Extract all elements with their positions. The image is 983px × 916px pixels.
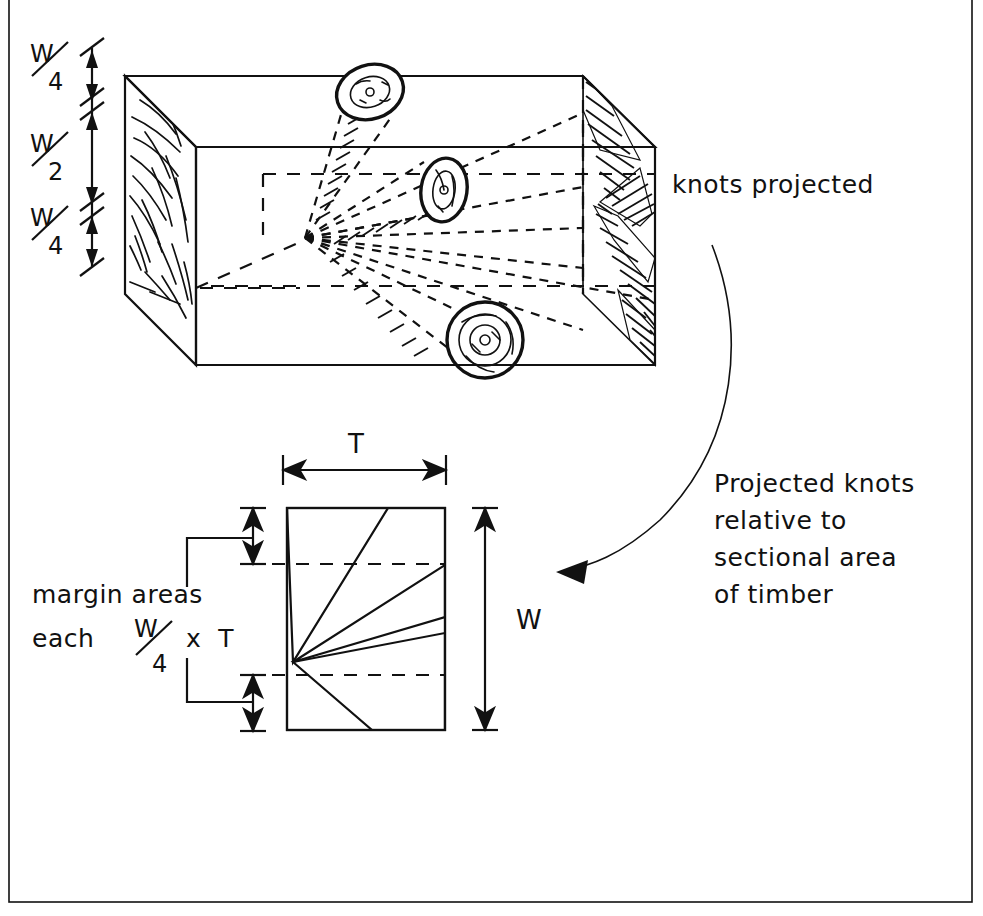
dimension-W: W [472, 508, 542, 730]
figure-page: W 4 W 2 W 4 [0, 0, 983, 916]
timber-block [125, 56, 655, 378]
fraction-denominator: 2 [48, 158, 63, 186]
knot-cone-shading [316, 104, 430, 356]
dimension-label-w-over-4-top: W 4 [30, 40, 68, 96]
wood-grain-rings [130, 96, 192, 318]
section-rectangle-outline [287, 508, 445, 730]
note-line-3: sectional area [714, 543, 897, 572]
dimension-label-T: T [347, 429, 364, 459]
margin-note-suffix: x T [186, 624, 234, 653]
figure-border [9, 0, 972, 902]
dimension-label-w-over-4-bottom: W 4 [30, 204, 68, 260]
note-line-1: Projected knots [714, 469, 915, 498]
projected-knot-hatching [583, 76, 655, 364]
knot-upper [329, 56, 410, 128]
hidden-edges [196, 76, 583, 365]
cross-section-diagram: T W [32, 429, 542, 731]
knots-projected-label: knots projected [672, 170, 874, 199]
fraction-numerator: W [30, 130, 54, 158]
leader-curve [560, 245, 731, 572]
dimension-label-w-over-2-middle: W 2 [30, 130, 68, 186]
fraction-numerator: W [30, 40, 54, 68]
margin-note-prefix: each [32, 624, 94, 653]
section-rectangle [287, 508, 445, 730]
left-dimension-stack: W 4 W 2 W 4 [30, 38, 104, 276]
dimension-label-W: W [516, 605, 542, 635]
projected-knot-wedges [287, 508, 445, 730]
arrowhead [86, 187, 98, 205]
arrowhead [86, 50, 98, 68]
note-line-2: relative to [714, 506, 847, 535]
pith-centre-line [196, 240, 305, 288]
margin-areas-note: margin areas each W 4 x T [32, 580, 234, 678]
fraction-denominator: 4 [48, 232, 63, 260]
technical-figure: W 4 W 2 W 4 [0, 0, 983, 916]
margin-note-line-1: margin areas [32, 580, 203, 609]
margin-leader-bracket [187, 538, 253, 702]
margin-dimension-top [240, 508, 266, 564]
projected-knots-note: Projected knots relative to sectional ar… [714, 469, 915, 609]
fraction-numerator: W [30, 204, 54, 232]
leader-arrowhead [556, 560, 588, 584]
dimension-T: T [283, 429, 446, 485]
margin-fraction-denominator: 4 [152, 650, 167, 678]
note-line-4: of timber [714, 580, 833, 609]
fraction-denominator: 4 [48, 68, 63, 96]
knot-lower [447, 302, 523, 378]
